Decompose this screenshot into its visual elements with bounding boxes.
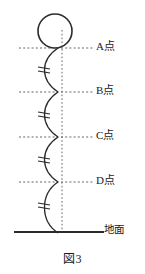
arc-segment-b-c [45,92,59,137]
arc-segment-d-ground [45,182,59,233]
ground-label: 地面 [104,225,124,236]
point-label-d: D点 [96,175,115,186]
ball-circle [38,14,72,48]
arc-segment-a-b [45,48,59,92]
point-label-c: C点 [96,130,114,141]
point-label-b: B点 [96,85,114,96]
arc-segment-c-d [45,137,59,182]
physics-figure: A点 B点 C点 D点 地面 図3 [0,0,145,274]
point-label-a: A点 [96,41,115,52]
figure-caption: 図3 [0,249,145,267]
